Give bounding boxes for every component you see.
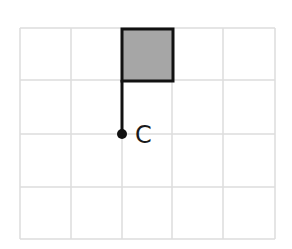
- shaded-square: [122, 29, 173, 81]
- point-label: C: [135, 121, 152, 149]
- grid-diagram: C: [0, 0, 292, 249]
- point-c: [117, 129, 127, 139]
